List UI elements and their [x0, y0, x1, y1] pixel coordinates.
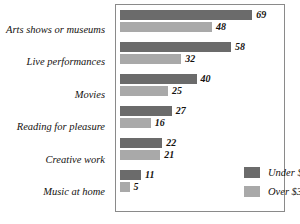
bar-over — [120, 54, 181, 64]
bar-value-label: 27 — [176, 106, 186, 116]
bar-under — [120, 74, 197, 84]
bar-value-label: 25 — [172, 86, 182, 96]
bar-over — [120, 182, 130, 192]
bar-under — [120, 138, 162, 148]
bar-value-label: 69 — [256, 10, 266, 20]
grouped-bar-chart: Arts shows or museums Live performances … — [0, 0, 300, 224]
bar-value-label: 16 — [155, 118, 165, 128]
bar-over — [120, 22, 212, 32]
bar-under — [120, 42, 231, 52]
category-label: Creative work — [0, 154, 105, 165]
bar-value-label: 5 — [134, 182, 139, 192]
bar-value-label: 11 — [145, 170, 154, 180]
category-label-column: Arts shows or museums Live performances … — [0, 4, 110, 212]
category-label: Arts shows or museums — [0, 24, 105, 35]
legend-swatch-icon — [244, 186, 260, 197]
category-label: Live performances — [0, 56, 105, 67]
bar-over — [120, 118, 151, 128]
legend-label: Under $35,000 — [268, 167, 300, 178]
category-label: Reading for pleasure — [0, 121, 105, 132]
plot-area: 69485832402527162221115 Under $35,000 Ov… — [115, 4, 285, 212]
legend-item-under: Under $35,000 — [244, 165, 300, 180]
legend-item-over: Over $35,000 — [244, 184, 300, 199]
bar-value-label: 58 — [235, 42, 245, 52]
bar-value-label: 22 — [166, 138, 176, 148]
chart-legend: Under $35,000 Over $35,000 — [244, 165, 300, 203]
bar-under — [120, 10, 252, 20]
bar-value-label: 40 — [201, 74, 211, 84]
legend-swatch-icon — [244, 167, 260, 178]
legend-label: Over $35,000 — [268, 186, 300, 197]
bar-value-label: 32 — [185, 54, 195, 64]
category-label: Music at home — [0, 186, 105, 197]
bar-value-label: 48 — [216, 22, 226, 32]
bar-over — [120, 150, 160, 160]
bar-value-label: 21 — [164, 150, 174, 160]
bar-under — [120, 170, 141, 180]
category-label: Movies — [0, 89, 105, 100]
bar-over — [120, 86, 168, 96]
bar-under — [120, 106, 172, 116]
